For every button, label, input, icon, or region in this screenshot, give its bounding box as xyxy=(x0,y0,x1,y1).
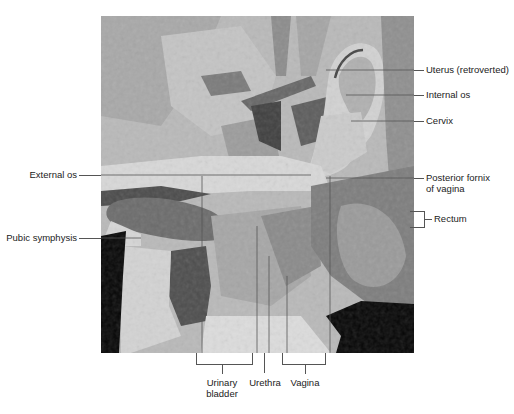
leader-line-pubic-symphysis xyxy=(79,238,101,239)
anatomy-photograph xyxy=(101,16,414,353)
vagina-bracket-left xyxy=(282,353,283,364)
leader-line-cervix xyxy=(414,121,424,122)
leader-line-bladder xyxy=(222,364,223,374)
leader-line-urethra xyxy=(264,353,265,373)
label-uterus: Uterus (retroverted) xyxy=(426,64,509,75)
bladder-bracket-base xyxy=(196,364,253,365)
label-cervix: Cervix xyxy=(426,115,453,126)
rectum-bracket-top xyxy=(410,211,424,212)
rectum-bracket-bottom xyxy=(410,227,424,228)
leader-line-uterus xyxy=(414,70,424,71)
leader-line-internal-os xyxy=(414,95,424,96)
vagina-bracket-base xyxy=(282,364,326,365)
leader-line-rectum xyxy=(424,219,432,220)
leader-line-external-os xyxy=(79,175,101,176)
label-external-os: External os xyxy=(29,169,77,180)
bladder-bracket-left xyxy=(196,353,197,364)
label-posterior-fornix: Posterior fornix of vagina xyxy=(426,172,490,194)
bladder-bracket-right xyxy=(252,353,253,364)
vagina-bracket-right xyxy=(325,353,326,364)
label-rectum: Rectum xyxy=(434,213,467,224)
leader-line-posterior-fornix xyxy=(414,178,424,179)
label-vagina: Vagina xyxy=(282,377,328,388)
label-urinary-bladder: Urinary bladder xyxy=(198,377,246,399)
label-internal-os: Internal os xyxy=(426,89,470,100)
leader-line-vagina xyxy=(305,364,306,374)
label-pubic-symphysis: Pubic symphysis xyxy=(6,232,77,243)
